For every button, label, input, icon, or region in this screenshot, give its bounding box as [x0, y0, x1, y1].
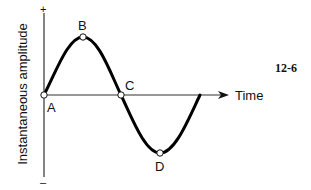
y-axis-minus-sign: –: [40, 176, 47, 188]
y-axis-plus-sign: +: [40, 3, 46, 15]
point-a-label: A: [47, 100, 56, 115]
point-d-label: D: [155, 159, 164, 174]
x-axis-label: Time: [235, 88, 263, 103]
sine-wave-diagram: A B C D + – Instantaneous amplitude Time…: [0, 0, 311, 190]
y-axis-label: Instantaneous amplitude: [15, 23, 30, 165]
point-b-label: B: [78, 18, 87, 33]
point-c-marker: [118, 92, 124, 98]
figure-number: 12-6: [275, 61, 297, 75]
point-d-marker: [157, 150, 163, 156]
point-a-marker: [41, 92, 47, 98]
point-c-label: C: [125, 78, 134, 93]
point-b-marker: [80, 34, 86, 40]
